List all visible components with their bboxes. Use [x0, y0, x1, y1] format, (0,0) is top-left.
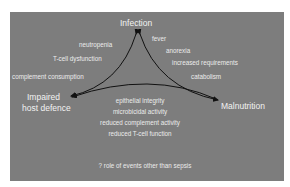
label-fever: fever — [152, 36, 166, 42]
label-complement-consumption: complement consumption — [12, 74, 84, 80]
label-epithelial-integrity: epithelial integrity — [90, 98, 190, 104]
footnote: ? role of events other than sepsis — [70, 163, 220, 169]
node-impaired-line2: host defence — [22, 104, 71, 113]
label-increased-requirements: increased requirements — [172, 60, 238, 66]
node-malnutrition: Malnutrition — [221, 102, 265, 111]
node-infection: Infection — [120, 19, 152, 28]
label-neutropenia: neutropenia — [79, 42, 112, 48]
label-reduced-t-cell-function: reduced T-cell function — [90, 131, 190, 137]
label-reduced-complement-activity: reduced complement activity — [80, 120, 200, 126]
label-t-cell-dysfunction: T-cell dysfunction — [53, 56, 102, 62]
label-anorexia: anorexia — [166, 48, 190, 54]
label-microbicidal-activity: microbicidal activity — [90, 109, 190, 115]
node-impaired-line1: Impaired — [27, 93, 60, 102]
arrow-infection-to-malnutrition — [140, 34, 218, 100]
label-catabolism: catabolism — [191, 74, 221, 80]
